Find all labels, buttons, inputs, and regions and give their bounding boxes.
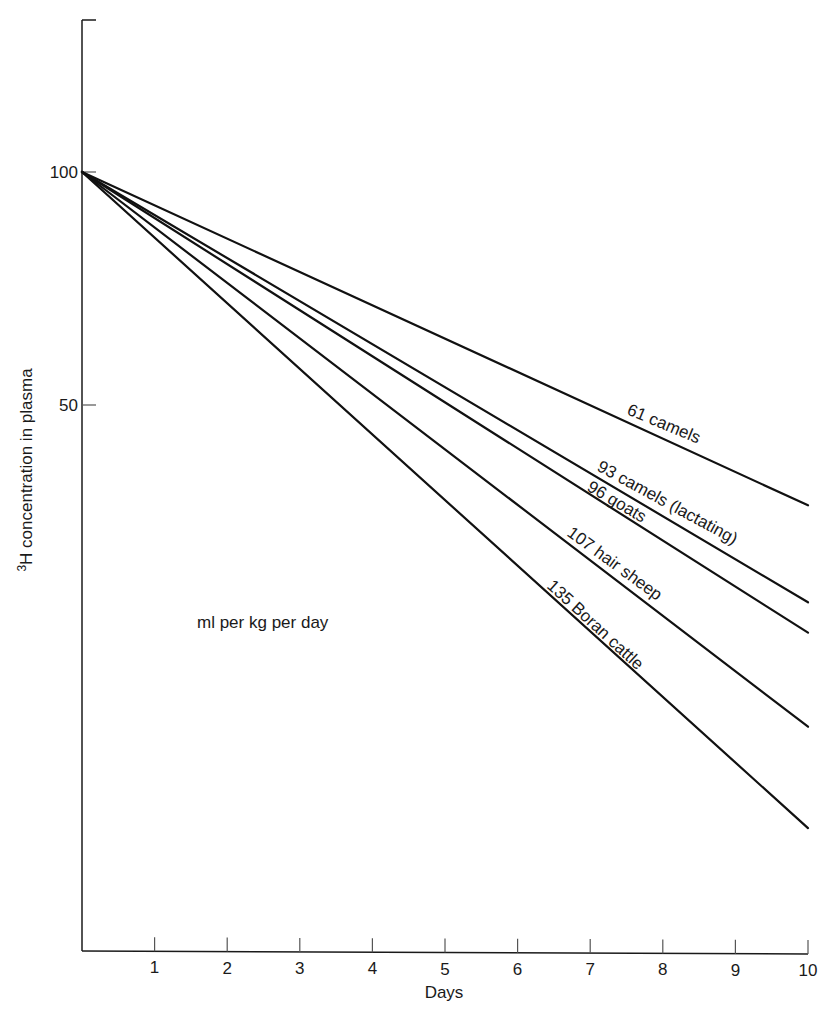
series-label-135-boran-cattle: 135 Boran cattle — [543, 576, 647, 674]
series-label-107-hair-sheep: 107 hair sheep — [564, 523, 666, 604]
x-tick-label-2: 2 — [222, 959, 231, 978]
x-tick-label-7: 7 — [585, 960, 594, 979]
series-line-135-boran-cattle — [82, 172, 808, 828]
y-tick-label-100: 100 — [50, 163, 78, 182]
x-tick-labels: 12345678910 — [150, 958, 818, 980]
x-tick-label-10: 10 — [799, 961, 818, 980]
chart-canvas: 100 50 12345678910 Days 3H concentration… — [0, 0, 832, 1014]
series-line-61-camels — [82, 172, 808, 505]
series-line-107-hair-sheep — [82, 172, 808, 727]
y-axis-title: 3H concentration in plasma — [15, 368, 36, 572]
y-axis-title-text: H concentration in plasma — [17, 368, 36, 565]
x-tick-label-1: 1 — [150, 958, 159, 977]
series-lines — [82, 172, 808, 828]
series-line-93-camels-lactating — [82, 172, 808, 602]
x-tick-label-4: 4 — [368, 959, 377, 978]
x-tick-label-3: 3 — [295, 959, 304, 978]
y-tick-label-50: 50 — [59, 396, 78, 415]
x-tick-label-8: 8 — [658, 960, 667, 979]
x-tick-label-5: 5 — [440, 960, 449, 979]
x-axis-title: Days — [425, 983, 464, 1002]
x-tick-label-6: 6 — [513, 960, 522, 979]
y-ticks — [82, 172, 96, 405]
axes — [82, 20, 808, 954]
series-line-96-goats — [82, 172, 808, 633]
units-annotation: ml per kg per day — [197, 613, 329, 632]
x-tick-label-9: 9 — [731, 961, 740, 980]
